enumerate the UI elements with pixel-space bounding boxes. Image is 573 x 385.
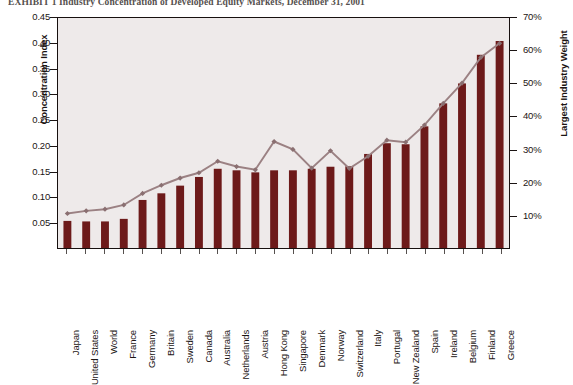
line-path: [67, 43, 499, 213]
x-axis-tick-label: Belgium: [467, 330, 478, 363]
line-series: [58, 18, 509, 248]
x-axis-tick-mark: [293, 249, 294, 254]
x-axis-tick-mark: [331, 249, 332, 254]
x-axis-tick-label: France: [127, 330, 138, 359]
x-axis-tick-label: World: [108, 330, 119, 354]
x-axis-tick-label: Ireland: [448, 330, 459, 358]
x-axis-tick-mark: [501, 249, 502, 254]
y-axis-left-tick-mark: [50, 146, 57, 147]
y-axis-left-tick-mark: [50, 69, 57, 70]
x-axis-tick-label: Spain: [429, 330, 440, 354]
x-axis-tick-label: Japan: [70, 330, 81, 355]
y-axis-left-tick-mark: [50, 223, 57, 224]
y-axis-left-tick-mark: [50, 43, 57, 44]
y-axis-right-tick-label: 20%: [523, 177, 541, 188]
x-axis-tick-label: Hong Kong: [278, 330, 289, 376]
x-axis-tick-label: New Zealand: [410, 330, 421, 384]
x-axis-tick-label: Portugal: [391, 330, 402, 364]
x-axis-tick-mark: [387, 249, 388, 254]
x-axis-tick-mark: [123, 249, 124, 254]
x-axis-tick-label: Canada: [203, 330, 214, 362]
x-axis-tick-label: Greece: [505, 330, 516, 360]
x-axis-tick-mark: [425, 249, 426, 254]
x-axis-tick-mark: [312, 249, 313, 254]
x-axis-tick-mark: [199, 249, 200, 254]
x-axis-tick-label: Singapore: [297, 330, 308, 372]
x-axis-tick-mark: [406, 249, 407, 254]
y-axis-right-tick-mark: [510, 183, 517, 184]
y-axis-left-tick-label: 0.30: [32, 88, 50, 99]
x-axis-tick-label: United States: [89, 330, 100, 385]
x-axis-tick-label: Australia: [221, 330, 232, 366]
y-axis-left-tick-mark: [50, 94, 57, 95]
line-marker: [102, 207, 107, 212]
line-marker: [65, 211, 70, 216]
x-axis-tick-mark: [444, 249, 445, 254]
x-axis-tick-label: Norway: [335, 330, 346, 361]
x-axis-tick-mark: [274, 249, 275, 254]
y-axis-left-tick-label: 0.40: [32, 37, 50, 48]
y-axis-left-tick-mark: [50, 120, 57, 121]
x-axis-tick-mark: [66, 249, 67, 254]
x-axis-tick-mark: [255, 249, 256, 254]
y-axis-left-tick-mark: [50, 172, 57, 173]
y-axis-right-tick-mark: [510, 83, 517, 84]
x-axis-tick-label: Britain: [165, 330, 176, 356]
y-axis-right-tick-label: 50%: [523, 77, 541, 88]
x-axis-tick-label: Finland: [486, 330, 497, 360]
y-axis-right-tick-label: 60%: [523, 44, 541, 55]
y-axis-right-tick-mark: [510, 150, 517, 151]
y-axis-right-tick-label: 10%: [523, 210, 541, 221]
y-axis-right-tick-mark: [510, 116, 517, 117]
x-axis-tick-label: Sweden: [184, 330, 195, 363]
y-axis-left-tick-label: 0.20: [32, 140, 50, 151]
y-axis-right-tick-mark: [510, 50, 517, 51]
line-marker: [234, 164, 239, 169]
chart-title: EXHIBIT 1 Industry Concentration of Deve…: [8, 0, 568, 8]
x-axis-tick-mark: [161, 249, 162, 254]
x-axis-tick-label: Denmark: [316, 330, 327, 368]
x-axis-tick-mark: [482, 249, 483, 254]
x-axis-tick-mark: [85, 249, 86, 254]
y-axis-left-tick-label: 0.35: [32, 63, 50, 74]
plot-area: [57, 17, 510, 249]
y-axis-right-tick-mark: [510, 17, 517, 18]
y-axis-right-tick-label: 40%: [523, 110, 541, 121]
x-axis-tick-mark: [142, 249, 143, 254]
x-axis-tick-mark: [350, 249, 351, 254]
y-axis-left-tick-mark: [50, 197, 57, 198]
x-axis-tick-label: Italy: [372, 330, 383, 347]
y-axis-right-tick-mark: [510, 216, 517, 217]
x-axis-tick-label: Netherlands: [240, 330, 251, 380]
x-axis-tick-label: Austria: [259, 330, 270, 359]
line-marker: [178, 175, 183, 180]
y-axis-right-tick-label: 30%: [523, 144, 541, 155]
y-axis-right-tick-label: 70%: [523, 11, 541, 22]
y-axis-left-tick-label: 0.45: [32, 11, 50, 22]
y-axis-left-tick-mark: [50, 17, 57, 18]
y-axis-left-tick-label: 0.15: [32, 166, 50, 177]
x-axis-tick-mark: [236, 249, 237, 254]
y-axis-right-title: Largest Industry Weight: [558, 9, 569, 159]
line-marker: [84, 208, 89, 213]
x-axis-tick-mark: [104, 249, 105, 254]
y-axis-left-tick-label: 0.05: [32, 217, 50, 228]
x-axis-tick-mark: [463, 249, 464, 254]
x-axis-tick-label: Switzerland: [354, 330, 365, 377]
y-axis-left-tick-label: 0.10: [32, 191, 50, 202]
y-axis-left-tick-label: 0.25: [32, 114, 50, 125]
x-axis-tick-mark: [368, 249, 369, 254]
x-axis-tick-label: Germany: [146, 330, 157, 368]
x-axis-tick-mark: [180, 249, 181, 254]
x-axis-tick-mark: [217, 249, 218, 254]
